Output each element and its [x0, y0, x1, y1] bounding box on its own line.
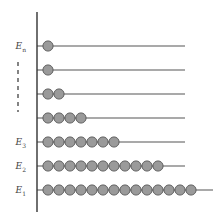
particle-circle: [98, 137, 108, 147]
particle-circle: [153, 185, 163, 195]
energy-levels: [37, 41, 213, 195]
level-label-subscript: 2: [22, 166, 26, 173]
energy-level-7: [37, 41, 185, 51]
particle-circle: [65, 161, 75, 171]
particle-circle: [76, 113, 86, 123]
particle-circle: [54, 185, 64, 195]
particle-circle: [43, 65, 53, 75]
particle-circle: [153, 161, 163, 171]
energy-level-2: [37, 161, 185, 171]
particle-circle: [76, 137, 86, 147]
particle-circle: [87, 137, 97, 147]
particle-circle: [65, 113, 75, 123]
particle-circle: [76, 161, 86, 171]
particle-circle: [87, 161, 97, 171]
particle-circle: [175, 185, 185, 195]
level-label: E1: [6, 185, 26, 199]
particle-circle: [76, 185, 86, 195]
particle-circle: [142, 185, 152, 195]
energy-level-diagram: [0, 0, 223, 219]
particle-circle: [120, 185, 130, 195]
energy-level-3: [37, 137, 185, 147]
level-label: E2: [6, 161, 26, 175]
particle-circle: [131, 185, 141, 195]
energy-level-6: [37, 65, 185, 75]
energy-level-4: [37, 113, 185, 123]
level-label-subscript: 3: [22, 142, 26, 149]
particle-circle: [54, 113, 64, 123]
energy-level-1: [37, 185, 213, 195]
particle-circle: [120, 161, 130, 171]
particle-circle: [43, 41, 53, 51]
particle-circle: [109, 185, 119, 195]
particle-circle: [87, 185, 97, 195]
particle-circle: [43, 185, 53, 195]
energy-level-5: [37, 89, 185, 99]
level-label: En: [6, 41, 26, 55]
particle-circle: [43, 161, 53, 171]
particle-circle: [54, 137, 64, 147]
particle-circle: [186, 185, 196, 195]
particle-circle: [65, 137, 75, 147]
particle-circle: [54, 161, 64, 171]
particle-circle: [164, 185, 174, 195]
particle-circle: [54, 89, 64, 99]
level-label: E3: [6, 137, 26, 151]
particle-circle: [43, 113, 53, 123]
particle-circle: [65, 185, 75, 195]
particle-circle: [142, 161, 152, 171]
level-label-subscript: n: [22, 46, 26, 53]
particle-circle: [43, 89, 53, 99]
particle-circle: [131, 161, 141, 171]
particle-circle: [98, 185, 108, 195]
particle-circle: [98, 161, 108, 171]
particle-circle: [43, 137, 53, 147]
level-label-subscript: 1: [22, 190, 26, 197]
particle-circle: [109, 161, 119, 171]
particle-circle: [109, 137, 119, 147]
